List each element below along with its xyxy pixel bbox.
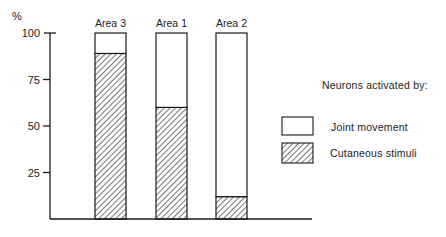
y-tick-label-100: 100: [22, 27, 40, 39]
bar-cutaneous-area-2: [216, 197, 247, 219]
legend-swatches: [282, 117, 313, 163]
category-labels: Area 3Area 1Area 2: [95, 17, 247, 29]
bar-joint-area-3: [95, 33, 126, 53]
bar-cutaneous-area-3: [95, 53, 126, 219]
category-label-area-1: Area 1: [156, 17, 187, 29]
y-tick-label-50: 50: [28, 120, 40, 132]
y-axis-label: %: [12, 10, 22, 22]
bar-cutaneous-area-1: [156, 107, 187, 219]
y-tick-label-75: 75: [28, 74, 40, 86]
category-label-area-2: Area 2: [216, 17, 247, 29]
legend-swatch-joint-movement: [282, 117, 313, 135]
category-label-area-3: Area 3: [95, 17, 126, 29]
bar-joint-area-1: [156, 33, 187, 107]
legend-label-joint-movement: Joint movement: [331, 121, 408, 133]
y-ticks: 255075100: [22, 27, 56, 179]
y-tick-label-25: 25: [28, 167, 40, 179]
chart: % 255075100 Area 3Area 1Area 2: [0, 0, 446, 237]
legend-title: Neurons activated by:: [322, 79, 428, 91]
legend-label-cutaneous-stimuli: Cutaneous stimuli: [330, 147, 417, 159]
legend-swatch-cutaneous-stimuli: [282, 143, 313, 163]
bar-joint-area-2: [216, 33, 247, 197]
bars: [95, 33, 247, 219]
